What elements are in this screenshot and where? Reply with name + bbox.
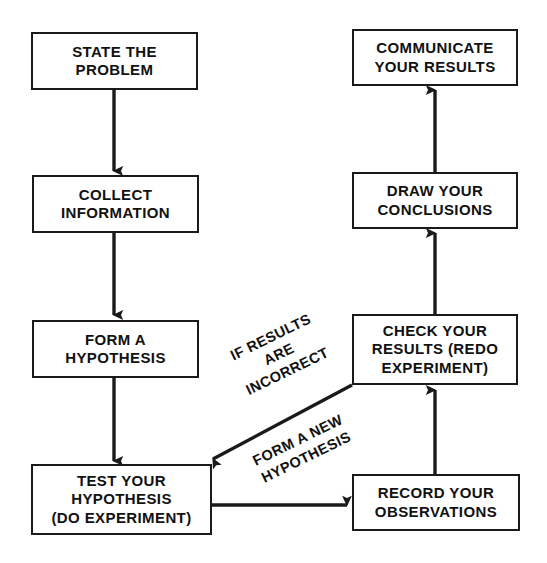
node-record-your-observations: RECORD YOUR OBSERVATIONS xyxy=(352,474,520,531)
node-collect-information: COLLECT INFORMATION xyxy=(32,175,199,233)
node-draw-your-conclusions-label: DRAW YOUR CONCLUSIONS xyxy=(373,182,496,219)
node-communicate-your-results-label: COMMUNICATE YOUR RESULTS xyxy=(370,39,499,76)
node-state-the-problem-label: STATE THE PROBLEM xyxy=(68,43,161,80)
node-check-your-results: CHECK YOUR RESULTS (REDO EXPERIMENT) xyxy=(352,314,518,385)
node-test-your-hypothesis-label: TEST YOUR HYPOTHESIS (DO EXPERIMENT) xyxy=(47,472,195,527)
node-form-a-hypothesis: FORM A HYPOTHESIS xyxy=(32,320,199,378)
node-communicate-your-results: COMMUNICATE YOUR RESULTS xyxy=(352,29,518,86)
node-test-your-hypothesis: TEST YOUR HYPOTHESIS (DO EXPERIMENT) xyxy=(31,464,212,535)
node-record-your-observations-label: RECORD YOUR OBSERVATIONS xyxy=(371,484,501,521)
flowchart-diagram: STATE THE PROBLEM COLLECT INFORMATION FO… xyxy=(0,0,547,563)
node-draw-your-conclusions: DRAW YOUR CONCLUSIONS xyxy=(352,172,518,229)
node-collect-information-label: COLLECT INFORMATION xyxy=(57,186,174,223)
node-check-your-results-label: CHECK YOUR RESULTS (REDO EXPERIMENT) xyxy=(368,322,503,377)
node-form-a-hypothesis-label: FORM A HYPOTHESIS xyxy=(61,331,170,368)
node-state-the-problem: STATE THE PROBLEM xyxy=(31,32,198,90)
